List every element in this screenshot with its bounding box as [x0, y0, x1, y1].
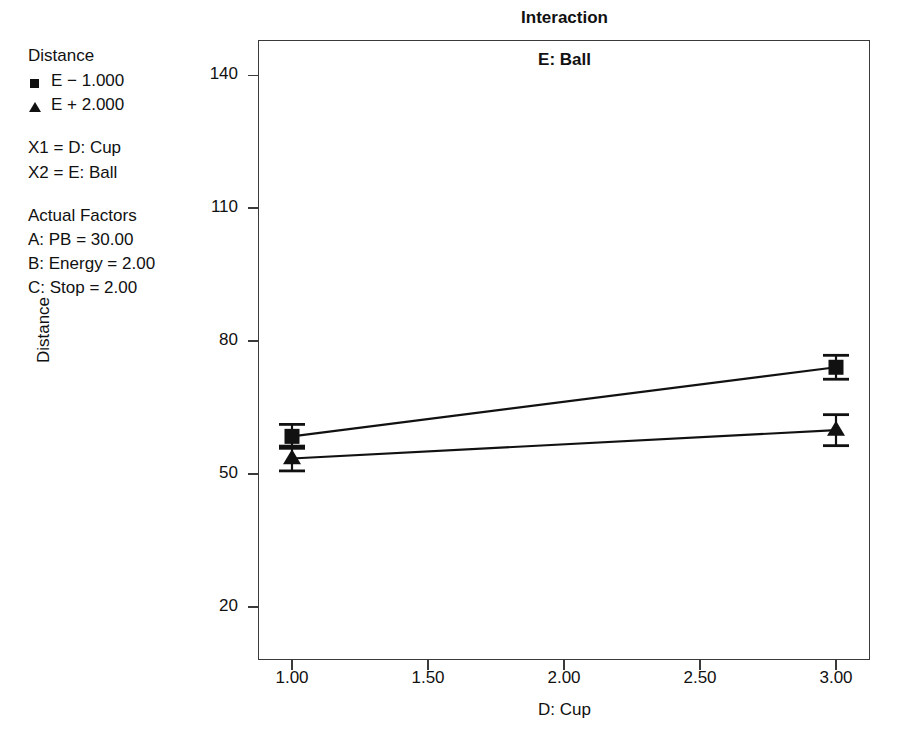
- x-tick-label: 3.00: [796, 668, 876, 688]
- axis-mapping-x2: X2 = E: Ball: [28, 161, 233, 185]
- spacer: [28, 117, 233, 136]
- plot-frame: [258, 40, 870, 660]
- square-marker-icon: [28, 73, 44, 90]
- y-axis-title: Distance: [34, 270, 54, 390]
- actual-factor-c: C: Stop = 2.00: [28, 276, 233, 300]
- legend-item-label: E − 1.000: [51, 69, 124, 93]
- x-tick-label: 1.50: [388, 668, 468, 688]
- actual-factor-b: B: Energy = 2.00: [28, 252, 233, 276]
- chart-title: Interaction: [258, 8, 871, 28]
- x-tick-label: 2.50: [660, 668, 740, 688]
- y-tick-label: 50: [178, 463, 238, 483]
- axis-mapping-x1: X1 = D: Cup: [28, 136, 233, 160]
- y-tick-label: 80: [178, 330, 238, 350]
- legend-item-e-plus: E + 2.000: [28, 93, 233, 117]
- y-tick-mark: [248, 207, 258, 209]
- y-tick-mark: [248, 473, 258, 475]
- triangle-marker-icon: [28, 97, 44, 114]
- y-tick-label: 110: [178, 197, 238, 217]
- y-tick-mark: [248, 606, 258, 608]
- actual-factor-a: A: PB = 30.00: [28, 228, 233, 252]
- x-tick-label: 1.00: [252, 668, 332, 688]
- panel-label: E: Ball: [258, 50, 871, 70]
- y-tick-label: 20: [178, 596, 238, 616]
- x-axis-title: D: Cup: [258, 700, 871, 720]
- y-tick-label: 140: [178, 64, 238, 84]
- x-tick-label: 2.00: [524, 668, 604, 688]
- y-tick-mark: [248, 340, 258, 342]
- y-tick-mark: [248, 75, 258, 77]
- legend-item-label: E + 2.000: [51, 93, 124, 117]
